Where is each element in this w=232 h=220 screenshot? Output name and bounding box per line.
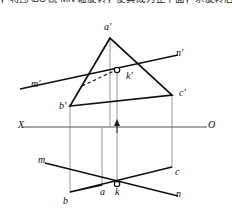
- label-a: a: [100, 187, 105, 197]
- triangle-abc-prime: [70, 38, 172, 106]
- line-m-n: [45, 163, 178, 196]
- frontal-triangle: [70, 38, 172, 106]
- label-k-prime: k': [126, 71, 133, 81]
- xo-axis: [23, 119, 207, 133]
- label-c: c: [175, 167, 179, 177]
- label-axis-o: O: [208, 120, 215, 130]
- label-n: n: [176, 189, 181, 199]
- label-axis-x: X: [18, 120, 24, 130]
- label-m: m: [38, 155, 45, 165]
- axis-mn: [45, 163, 178, 196]
- diagram-page: ，将△ABC 绕 MN 轴旋转，使其成为正平面，求旋转后的投影。: [0, 0, 232, 220]
- label-k: k: [115, 187, 119, 197]
- projector-lines: [70, 38, 172, 193]
- label-b-prime: b': [59, 101, 66, 111]
- label-a-prime: a': [104, 22, 111, 32]
- axis-arrow-icon: [114, 119, 120, 126]
- horizontal-triangle: [70, 167, 172, 192]
- axis-mn-prime: [20, 55, 178, 89]
- label-m-prime: m': [31, 79, 40, 89]
- label-b: b: [63, 196, 68, 206]
- point-marker-k-prime: [114, 67, 119, 72]
- label-c-prime: c': [179, 88, 186, 98]
- polyline-b-a-c: [70, 167, 172, 192]
- line-m-prime-n-prime: [20, 55, 178, 89]
- label-n-prime: n': [176, 48, 183, 58]
